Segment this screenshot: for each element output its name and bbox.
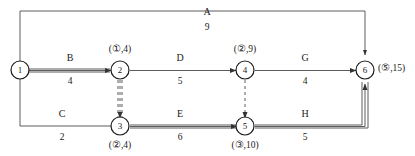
node-2-tag: (①,4) — [109, 45, 131, 55]
node-4-label: 4 — [243, 66, 248, 75]
edge-E — [130, 125, 237, 128]
node-6-tag: (⑤,15) — [378, 64, 405, 74]
node-4-tag: (②,9) — [234, 45, 256, 55]
node-3-label: 3 — [118, 122, 123, 131]
edge-E-name: E — [177, 109, 183, 119]
network-diagram: 1 2 3 4 5 6 (①,4) (②,4) (②,9) (③,10) (⑤,… — [0, 0, 415, 156]
edge-B-name: B — [67, 53, 74, 63]
edge-B-weight: 4 — [68, 77, 73, 87]
node-5-tag: (③,10) — [231, 141, 258, 151]
node-3-tag: (②,4) — [109, 141, 131, 151]
edge-H-weight: 5 — [303, 133, 308, 143]
edge-D-weight: 5 — [178, 77, 183, 87]
edge-A-name: A — [203, 7, 210, 17]
edge-G-name: G — [301, 53, 308, 63]
edge-B — [29, 69, 111, 72]
edge-dummy-2-3 — [118, 80, 122, 118]
edge-G-weight: 4 — [303, 77, 308, 87]
node-5-label: 5 — [243, 122, 248, 131]
edge-D-name: D — [176, 53, 183, 63]
edge-E-weight: 6 — [178, 133, 183, 143]
node-1-label: 1 — [18, 66, 23, 75]
edge-A-weight: 9 — [205, 23, 210, 33]
node-2-label: 2 — [118, 66, 123, 75]
edge-H-name: H — [301, 109, 308, 119]
edge-C-weight: 2 — [60, 133, 65, 143]
edge-H — [255, 82, 368, 128]
node-6-label: 6 — [363, 66, 368, 75]
edge-C-name: C — [59, 109, 66, 119]
